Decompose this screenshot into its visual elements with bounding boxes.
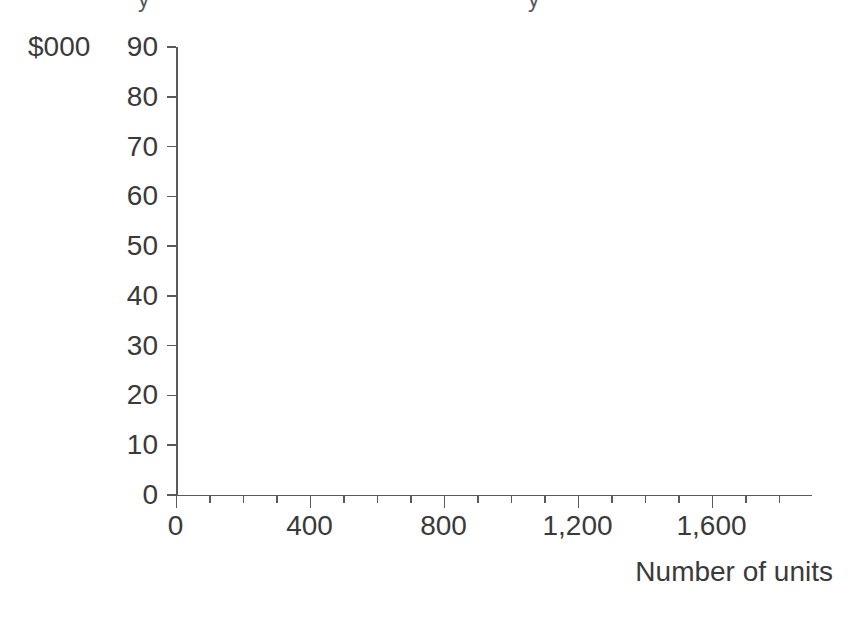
x-minor-tick-300	[276, 495, 278, 503]
y-tick-20	[167, 395, 176, 397]
x-tick-1200	[578, 495, 580, 508]
x-tick-1600	[712, 495, 714, 508]
x-minor-tick-1700	[745, 495, 747, 503]
x-minor-tick-1300	[611, 495, 613, 503]
y-tick-label-0: 0	[112, 481, 158, 509]
x-tick-400	[310, 495, 312, 508]
y-tick-label-70: 70	[112, 133, 158, 161]
y-tick-40	[167, 295, 176, 297]
x-minor-tick-1500	[678, 495, 680, 503]
x-tick-0	[176, 495, 178, 508]
y-tick-30	[167, 345, 176, 347]
plot-area	[177, 47, 812, 495]
y-tick-80	[167, 96, 176, 98]
x-minor-tick-700	[410, 495, 412, 503]
x-minor-tick-100	[209, 495, 211, 503]
x-minor-tick-600	[377, 495, 379, 503]
y-tick-label-30: 30	[112, 332, 158, 360]
x-minor-tick-500	[343, 495, 345, 503]
x-tick-label-0: 0	[168, 512, 184, 540]
y-tick-10	[167, 444, 176, 446]
x-tick-label-1600: 1,600	[676, 512, 746, 540]
y-tick-label-90: 90	[112, 33, 158, 61]
y-axis-line	[176, 47, 178, 496]
y-tick-70	[167, 146, 176, 148]
y-tick-label-10: 10	[112, 431, 158, 459]
x-minor-tick-1400	[645, 495, 647, 503]
y-tick-label-40: 40	[112, 282, 158, 310]
y-tick-50	[167, 245, 176, 247]
y-tick-label-60: 60	[112, 182, 158, 210]
x-minor-tick-1000	[511, 495, 513, 503]
x-tick-label-800: 800	[420, 512, 467, 540]
x-minor-tick-1100	[544, 495, 546, 503]
chart-figure: y y $000 9080706050403020100 04008001,20…	[0, 0, 849, 634]
title-remnant-right: y	[528, 0, 540, 13]
y-axis-title: $000	[28, 33, 90, 61]
x-tick-800	[444, 495, 446, 508]
y-tick-label-50: 50	[112, 232, 158, 260]
x-minor-tick-900	[477, 495, 479, 503]
x-tick-label-1200: 1,200	[542, 512, 612, 540]
x-minor-tick-1800	[779, 495, 781, 503]
x-tick-label-400: 400	[286, 512, 333, 540]
x-axis-line	[175, 495, 812, 497]
y-tick-90	[167, 46, 176, 48]
y-tick-60	[167, 196, 176, 198]
x-axis-title: Number of units	[0, 558, 833, 586]
y-axis-tick-labels: 9080706050403020100	[112, 0, 158, 634]
y-tick-label-80: 80	[112, 83, 158, 111]
x-minor-tick-200	[243, 495, 245, 503]
y-tick-label-20: 20	[112, 381, 158, 409]
